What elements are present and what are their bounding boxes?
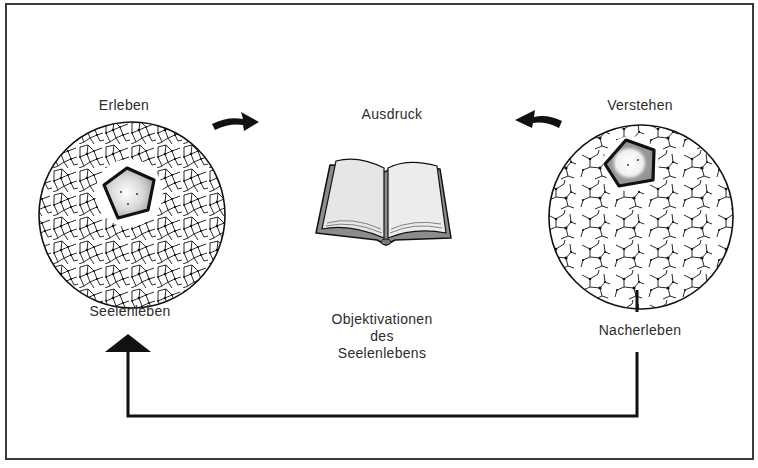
arrow-erleben-to-ausdruck-icon xyxy=(212,112,259,131)
label-line-3: Seelenlebens xyxy=(331,345,432,362)
arrowhead-up-icon xyxy=(105,334,151,352)
left-network-circle xyxy=(30,115,240,325)
label-erleben: Erleben xyxy=(99,97,149,113)
open-book-icon xyxy=(316,159,451,245)
label-verstehen: Verstehen xyxy=(607,97,673,113)
label-line-1: Objektivationen xyxy=(331,311,432,328)
label-ausdruck: Ausdruck xyxy=(362,106,423,122)
label-nacherleben: Nacherleben xyxy=(599,322,682,338)
arrow-verstehen-to-ausdruck-icon xyxy=(515,110,562,128)
label-line-2: des xyxy=(331,328,432,345)
label-objektivationen: Objektivationen des Seelenlebens xyxy=(331,311,432,362)
diagram-artwork xyxy=(0,0,758,468)
label-seelenleben: Seelenleben xyxy=(89,303,170,319)
right-network-circle xyxy=(545,120,745,320)
